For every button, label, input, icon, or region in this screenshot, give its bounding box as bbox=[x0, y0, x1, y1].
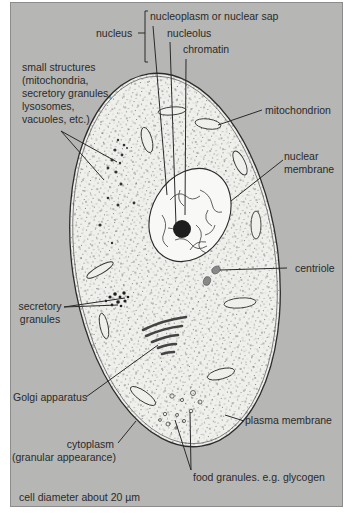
label-secretory-granules: secretory granules bbox=[17, 300, 63, 326]
figure-caption: cell diameter about 20 µm bbox=[19, 491, 140, 504]
label-cytoplasm: cytoplasm (granular appearance) bbox=[12, 438, 114, 464]
label-nucleus: nucleus bbox=[96, 27, 132, 40]
label-centriole: centriole bbox=[295, 262, 335, 275]
label-mitochondrion: mitochondrion bbox=[265, 104, 331, 117]
label-plasma-membrane: plasma membrane bbox=[245, 414, 332, 427]
label-chromatin: chromatin bbox=[183, 43, 229, 56]
label-nucleolus: nucleolus bbox=[167, 27, 211, 40]
label-food-granules: food granules. e.g. glycogen bbox=[193, 471, 325, 484]
label-nucleoplasm: nucleoplasm or nuclear sap bbox=[150, 10, 278, 23]
label-small-structures: small structures (mitochondria, secretor… bbox=[22, 61, 111, 126]
label-nuclear-membrane: nuclear membrane bbox=[284, 150, 334, 176]
label-golgi-apparatus: Golgi apparatus bbox=[13, 391, 87, 404]
